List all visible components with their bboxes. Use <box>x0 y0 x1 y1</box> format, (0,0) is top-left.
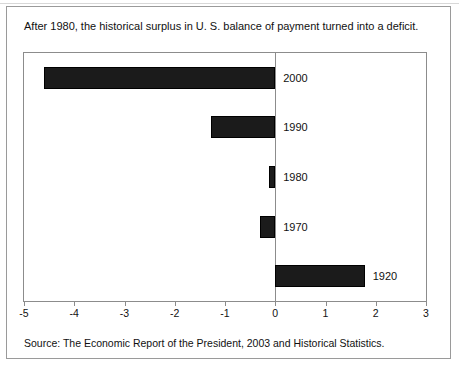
x-tick-1 <box>326 302 327 306</box>
bar-label-1920: 1920 <box>373 270 397 282</box>
bar-1980[interactable] <box>269 166 275 188</box>
bar-1990[interactable] <box>211 116 275 138</box>
x-tick-label--2: -2 <box>170 307 179 319</box>
x-tick-label-3: 3 <box>423 307 429 319</box>
x-tick-label-1: 1 <box>323 307 329 319</box>
x-tick-2 <box>376 302 377 306</box>
x-tick-label-2: 2 <box>373 307 379 319</box>
source-note: Source: The Economic Report of the Presi… <box>24 337 444 350</box>
x-tick-label--4: -4 <box>70 307 79 319</box>
bar-label-1970: 1970 <box>283 221 307 233</box>
bar-1920[interactable] <box>275 265 364 287</box>
bar-label-2000: 2000 <box>283 72 307 84</box>
top-edge-clip <box>0 0 459 4</box>
x-tick-label-0: 0 <box>272 307 278 319</box>
x-tick-3 <box>426 302 427 306</box>
x-tick-label--5: -5 <box>19 307 28 319</box>
plot-area: 20001990198019701920 <box>24 53 426 301</box>
x-tick--5 <box>24 302 25 306</box>
x-tick--4 <box>74 302 75 306</box>
bar-row: 1980 <box>24 166 426 188</box>
bar-1970[interactable] <box>260 216 275 238</box>
bar-2000[interactable] <box>44 67 275 89</box>
bar-label-1980: 1980 <box>283 171 307 183</box>
bar-row: 1990 <box>24 116 426 138</box>
bar-row: 2000 <box>24 67 426 89</box>
bar-row: 1920 <box>24 265 426 287</box>
x-tick-label--3: -3 <box>120 307 129 319</box>
x-tick--3 <box>125 302 126 306</box>
figure: After 1980, the historical surplus in U.… <box>0 0 459 369</box>
x-tick-label--1: -1 <box>220 307 229 319</box>
chart-caption: After 1980, the historical surplus in U.… <box>24 19 444 33</box>
bar-row: 1970 <box>24 216 426 238</box>
plot-frame: 20001990198019701920 <box>23 52 427 302</box>
x-tick-0 <box>275 302 276 306</box>
x-tick--1 <box>225 302 226 306</box>
x-tick--2 <box>175 302 176 306</box>
bar-label-1990: 1990 <box>283 121 307 133</box>
